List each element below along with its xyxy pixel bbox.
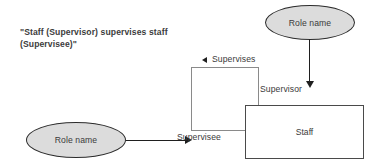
caption-line-1: "Staff (Supervisor) supervises staff [20,26,185,38]
supervisee-role-label: Supervisee [177,132,221,142]
staff-entity-box-label: Staff [296,127,314,137]
role-name-ellipse-top[interactable]: Role name [265,5,355,40]
role-name-ellipse-top-label: Role name [289,18,331,28]
staff-entity-box[interactable]: Staff [245,105,364,159]
caption-line-2: (Supervisee)" [20,38,185,50]
supervises-relationship-label: Supervises [212,54,256,64]
supervisor-role-label: Supervisor [260,84,302,94]
arrowhead-down-icon [306,81,314,88]
connector-line-supervisor [309,39,310,83]
role-name-ellipse-bottom-label: Role name [55,135,97,145]
role-name-ellipse-bottom[interactable]: Role name [26,122,126,158]
diagram-caption: "Staff (Supervisor) supervises staff (Su… [20,26,185,50]
triangle-left-icon [202,57,207,63]
diagram-canvas: "Staff (Supervisor) supervises staff (Su… [0,0,374,167]
